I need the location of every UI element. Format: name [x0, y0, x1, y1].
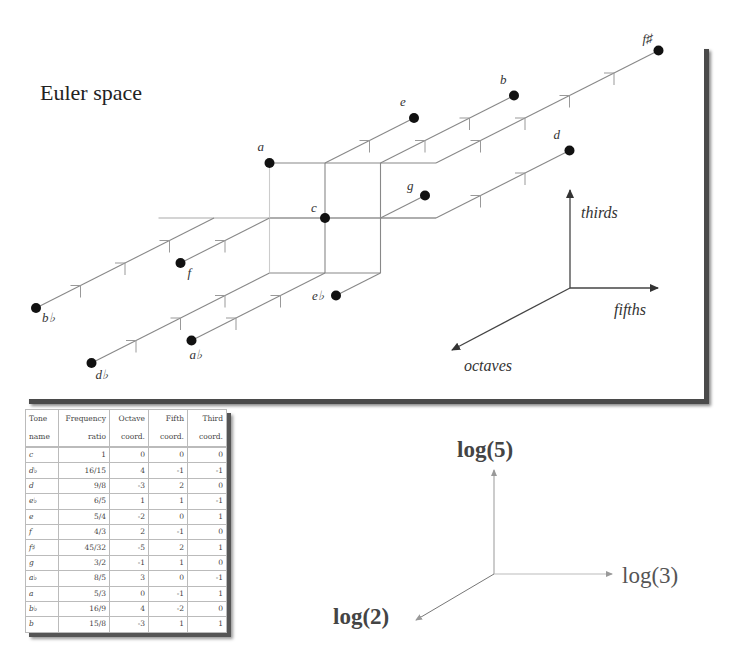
octave-tick	[515, 118, 525, 130]
table-row: b15/8-311	[26, 617, 227, 632]
table-row: d9/8-320	[26, 478, 227, 493]
table-row: a5/30-11	[26, 586, 227, 601]
octave-tick	[515, 173, 525, 185]
tone-node-f	[176, 258, 186, 268]
tone-node-b	[509, 91, 519, 101]
table-row: f♯45/32-521	[26, 540, 227, 555]
table-row: b♭16/94-20	[26, 601, 227, 616]
fifths-axis-label: fifths	[614, 301, 646, 319]
octave-tick	[171, 318, 181, 330]
log-axes: log(5) log(3) log(2)	[333, 437, 678, 629]
tone-node-e	[409, 113, 419, 123]
octave-tick	[460, 118, 470, 130]
octave-tick	[226, 318, 236, 330]
table-row: g3/2-110	[26, 555, 227, 570]
tone-node-label: c	[311, 200, 317, 215]
octave-tick	[71, 286, 81, 298]
tone-node-a	[265, 158, 275, 168]
lattice-edge	[336, 273, 381, 296]
log3-label: log(3)	[622, 563, 678, 588]
tone-node-label: g	[407, 178, 414, 193]
table-row: a♭8/530-1	[26, 571, 227, 586]
octave-tick	[360, 141, 370, 153]
tone-node-label: b♭	[42, 310, 56, 325]
tone-node-d	[565, 146, 575, 156]
octave-tick	[604, 73, 614, 85]
lattice-edge	[436, 151, 570, 219]
table-row: c1000	[26, 447, 227, 463]
table-row: f4/32-10	[26, 524, 227, 539]
table-row: e5/4-201	[26, 509, 227, 524]
header-tone-sub: name	[26, 428, 59, 447]
tone-node-label: e♭	[312, 288, 325, 303]
log5-label: log(5)	[457, 437, 513, 462]
lattice-edge	[381, 196, 426, 219]
octave-tick	[560, 96, 570, 108]
table-row: d♭16/154-1-1	[26, 463, 227, 478]
header-frequency: Frequency	[59, 410, 110, 429]
octave-tick	[471, 141, 481, 153]
tone-node-label: d	[554, 127, 561, 142]
header-fifth: Fifth	[149, 410, 188, 429]
octave-tick	[415, 141, 425, 153]
tone-coordinates-table: Tone Frequency Octave Fifth Third name r…	[25, 409, 227, 633]
diagram-title: Euler space	[40, 80, 142, 106]
direction-axes: thirds fifths octaves	[452, 190, 658, 374]
header-third: Third	[188, 410, 227, 429]
tone-node-label: a	[258, 139, 265, 154]
tone-node-label: e	[400, 94, 406, 109]
header-tone: Tone	[26, 410, 59, 429]
header-frequency-sub: ratio	[59, 428, 110, 447]
log2-axis-arrow	[416, 574, 494, 620]
tone-node-label: f	[188, 265, 194, 280]
octave-tick	[126, 341, 136, 353]
header-third-sub: coord.	[188, 428, 227, 447]
octave-tick	[215, 241, 225, 253]
tone-node-label: f♯	[643, 31, 655, 46]
octave-tick	[115, 263, 125, 275]
tone-node-e♭	[331, 291, 341, 301]
octaves-axis-label: octaves	[464, 357, 512, 374]
tone-node-g	[420, 191, 430, 201]
octave-tick	[471, 196, 481, 208]
tone-node-label: a♭	[190, 347, 204, 362]
octave-tick	[215, 296, 225, 308]
thirds-axis-label: thirds	[581, 204, 618, 221]
table-row: e♭6/511-1	[26, 494, 227, 509]
lattice-edge	[192, 273, 326, 341]
tone-node-a♭	[187, 336, 197, 346]
header-octave-sub: coord.	[110, 428, 149, 447]
tone-node-f♯	[654, 46, 664, 56]
tone-node-b♭	[31, 303, 41, 313]
tone-node-label: b	[500, 72, 507, 87]
octave-tick	[271, 296, 281, 308]
log2-label: log(2)	[333, 604, 389, 629]
octaves-axis-arrow	[452, 288, 570, 350]
lattice-edge	[436, 51, 659, 164]
header-fifth-sub: coord.	[149, 428, 188, 447]
header-octave: Octave	[110, 410, 149, 429]
octave-tick-marks	[71, 73, 615, 353]
tone-node-label: d♭	[96, 367, 110, 382]
octave-tick	[160, 241, 170, 253]
tone-node-c	[320, 213, 330, 223]
